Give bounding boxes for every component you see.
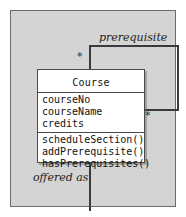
multiplicity-right: * xyxy=(145,110,151,121)
class-box-course[interactable]: Course courseNo courseName credits sched… xyxy=(37,69,145,163)
diagram-frame: * * prerequisite offered as Course cours… xyxy=(10,10,176,207)
attributes-compartment: courseNo courseName credits xyxy=(38,93,144,133)
class-name-compartment: Course xyxy=(38,70,144,93)
operation-item: scheduleSection() xyxy=(42,134,144,146)
multiplicity-left: * xyxy=(77,51,83,62)
attribute-item: courseNo xyxy=(42,94,144,106)
uml-class-diagram-canvas: * * prerequisite offered as Course cours… xyxy=(0,0,186,217)
class-name: Course xyxy=(72,77,109,88)
attribute-item: credits xyxy=(42,118,144,130)
prerequisite-link-segment-right xyxy=(177,45,179,111)
attribute-item: courseName xyxy=(42,106,144,118)
operation-item: hasPrerequisites() xyxy=(42,158,144,170)
prerequisite-link-segment-up xyxy=(89,45,91,70)
prerequisite-link-segment-top xyxy=(89,45,179,47)
association-label-prerequisite: prerequisite xyxy=(99,31,167,44)
operations-compartment: scheduleSection() addPrerequisite() hasP… xyxy=(38,133,144,172)
association-label-offered-as: offered as xyxy=(33,171,88,184)
operation-item: addPrerequisite() xyxy=(42,146,144,158)
